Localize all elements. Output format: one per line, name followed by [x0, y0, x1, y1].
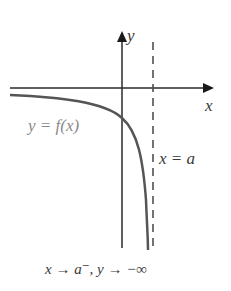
asymptote-label: x = a	[159, 150, 195, 167]
x-axis-label: x	[205, 97, 213, 114]
y-axis-arrowhead-icon	[117, 31, 127, 42]
curve-label: y = f(x)	[28, 117, 79, 134]
limit-caption: x → a⁻, y → −∞	[45, 262, 147, 277]
x-axis-arrowhead-icon	[203, 83, 214, 93]
y-axis-label: y	[127, 27, 135, 44]
graph-canvas	[0, 0, 231, 291]
